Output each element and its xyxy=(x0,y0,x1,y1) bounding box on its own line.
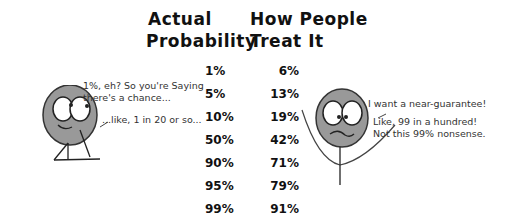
actual-value: 50% xyxy=(205,129,234,152)
left-speech-1: 1%, eh? So you're Saying there's a chanc… xyxy=(83,80,204,104)
header-treat-line2: Treat It xyxy=(250,30,368,52)
right-speech-line: Not this 99% nonsense. xyxy=(373,128,486,140)
left-speech-line: 1%, eh? So you're Saying xyxy=(83,80,204,92)
actual-value: 99% xyxy=(205,198,234,213)
actual-value: 1% xyxy=(205,60,234,83)
actual-column: 1% 5% 10% 50% 90% 95% 99% xyxy=(205,60,234,213)
header-actual-line1: Actual xyxy=(146,8,257,30)
right-speech-line: Like, 99 in a hundred! xyxy=(373,116,486,128)
header-actual: Actual Probability xyxy=(146,8,257,52)
left-speech-2: ...like, 1 in 20 or so... xyxy=(102,114,202,126)
actual-value: 10% xyxy=(205,106,234,129)
actual-value: 5% xyxy=(205,83,234,106)
header-actual-line2: Probability xyxy=(146,30,257,52)
actual-value: 90% xyxy=(205,152,234,175)
left-speech-line: there's a chance... xyxy=(83,92,204,104)
right-speech-2: Like, 99 in a hundred! Not this 99% nons… xyxy=(373,116,486,140)
treat-value: 91% xyxy=(255,198,299,213)
actual-value: 95% xyxy=(205,175,234,198)
right-speech-1: I want a near-guarantee! xyxy=(368,98,486,110)
header-treat: How People Treat It xyxy=(250,8,368,52)
header-treat-line1: How People xyxy=(250,8,368,30)
